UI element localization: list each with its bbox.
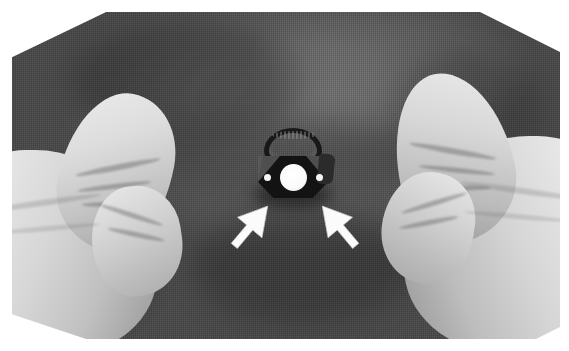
annotation-arrow-left-icon <box>224 198 278 254</box>
device-aperture <box>280 164 307 191</box>
glove-wrinkle <box>409 141 497 162</box>
figure-container <box>0 0 569 351</box>
glove-wrinkle <box>75 156 161 178</box>
glove-wrinkle <box>399 214 459 230</box>
right-gloved-hand <box>364 72 560 339</box>
photograph-plate <box>12 12 560 339</box>
glove-wrinkle <box>99 202 163 227</box>
device-marker-dot <box>264 174 271 181</box>
central-device <box>250 120 336 208</box>
device-band-marking <box>272 131 316 139</box>
glove-wrinkle <box>401 191 467 216</box>
left-gloved-hand <box>12 90 192 339</box>
glove-wrinkle <box>107 226 165 243</box>
device-marker-dot <box>316 174 323 181</box>
annotation-arrow-right-icon <box>312 198 366 254</box>
